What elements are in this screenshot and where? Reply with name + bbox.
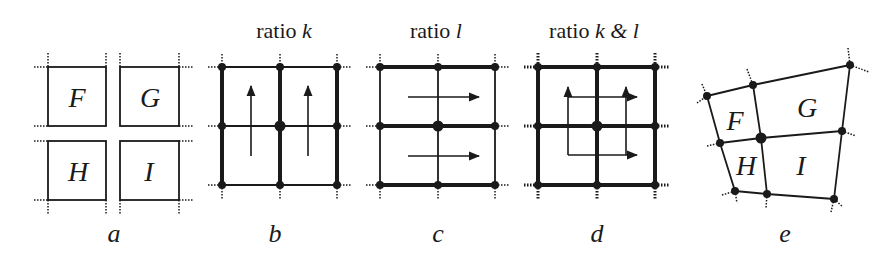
caption-a: a [108, 219, 121, 248]
grid-refinement-figure: F G H I [0, 0, 893, 255]
cell-label-F: F [67, 82, 86, 113]
panel-a: F G H I [34, 53, 194, 248]
cell-label-I: I [795, 150, 807, 181]
caption-b: b [269, 219, 282, 248]
cell-label-G: G [797, 92, 817, 123]
cell-label-G: G [140, 82, 160, 113]
panel-d: ratio k & l d [524, 18, 669, 248]
title-d: ratio k & l [549, 18, 639, 43]
cell-label-H: H [67, 156, 90, 187]
title-b: ratio k [256, 18, 313, 43]
cell-label-H: H [735, 150, 758, 181]
caption-c: c [432, 219, 444, 248]
cell-G: G [120, 67, 179, 126]
continuation-marks [34, 53, 194, 215]
cell-F: F [48, 67, 106, 126]
caption-e: e [779, 219, 791, 248]
panel-b: ratio k b [208, 18, 351, 248]
caption-d: d [591, 219, 605, 248]
title-c: ratio l [410, 18, 462, 43]
panel-c: ratio l c [366, 18, 509, 248]
cell-I: I [120, 141, 179, 200]
arrows-both-d [568, 87, 637, 155]
cell-label-F: F [725, 105, 744, 136]
cell-H: H [48, 141, 106, 200]
panel-e: F G H I e [697, 48, 869, 248]
cell-label-I: I [143, 156, 155, 187]
